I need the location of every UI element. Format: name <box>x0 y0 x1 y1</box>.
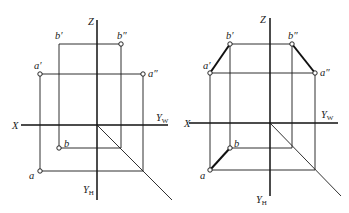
yh-label: YH <box>83 184 94 197</box>
point-b-dprime <box>119 42 123 46</box>
label-b-dprime: b″ <box>117 30 127 41</box>
label-a-dprime: a″ <box>320 67 330 78</box>
z-label: Z <box>260 14 266 25</box>
projection-diagram: Z X YW YH b′ b″ a′ a″ b a Z X YW <box>0 0 349 213</box>
label-a-dprime: a″ <box>148 68 158 79</box>
z-label: Z <box>88 16 94 27</box>
left-projection: Z X YW YH b′ b″ a′ a″ b a <box>11 16 172 200</box>
point-a-prime <box>208 71 212 75</box>
label-b-prime: b′ <box>55 30 63 41</box>
yw-label: YW <box>156 112 169 125</box>
point-a-prime <box>38 72 42 76</box>
x-label: X <box>11 120 19 131</box>
label-b: b <box>64 138 69 149</box>
point-a <box>208 168 212 172</box>
point-b <box>57 146 61 150</box>
right-projection: Z X YW YH b′ b″ a′ a″ b a <box>183 14 341 207</box>
yw-label: YW <box>321 109 334 122</box>
label-a: a <box>29 170 34 181</box>
label-a: a <box>200 170 205 181</box>
point-b <box>228 146 232 150</box>
x-label: X <box>183 118 191 129</box>
point-a-dprime <box>141 72 145 76</box>
label-b: b <box>234 138 239 149</box>
label-b-prime: b′ <box>226 30 234 41</box>
label-b-dprime: b″ <box>288 30 298 41</box>
yh-label: YH <box>256 194 267 207</box>
point-a <box>38 169 42 173</box>
segment-b-dprime-a-dprime <box>292 44 315 73</box>
segment-a-prime-b-prime <box>210 44 230 73</box>
point-b-dprime <box>290 42 294 46</box>
point-b-prime <box>228 42 232 46</box>
diagonal-45 <box>97 125 172 200</box>
label-a-prime: a′ <box>34 60 42 71</box>
label-a-prime: a′ <box>203 60 211 71</box>
diagonal-45 <box>270 123 341 196</box>
point-a-dprime <box>313 71 317 75</box>
segment-a-b <box>210 148 230 170</box>
